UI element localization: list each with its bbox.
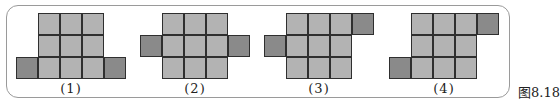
light-square (433, 57, 455, 79)
panel-label-1: (1) (60, 81, 81, 96)
light-square (330, 57, 352, 79)
light-square (330, 13, 352, 35)
light-square (38, 57, 60, 79)
dark-square (140, 35, 162, 57)
light-square (308, 13, 330, 35)
light-square (184, 35, 206, 57)
light-square (206, 35, 228, 57)
dark-square (352, 13, 374, 35)
light-square (82, 57, 104, 79)
light-square (38, 35, 60, 57)
light-square (286, 35, 308, 57)
light-square (308, 57, 330, 79)
light-square (286, 13, 308, 35)
light-square (184, 57, 206, 79)
light-square (60, 35, 82, 57)
light-square (162, 57, 184, 79)
light-square (455, 13, 477, 35)
panel-label-3: (3) (308, 81, 329, 96)
light-square (308, 35, 330, 57)
light-square (206, 57, 228, 79)
panel-label-4: (4) (433, 81, 454, 96)
light-square (455, 35, 477, 57)
panel-label-2: (2) (184, 81, 205, 96)
light-square (60, 57, 82, 79)
light-square (433, 13, 455, 35)
dark-square (477, 13, 499, 35)
light-square (433, 35, 455, 57)
dark-square (264, 35, 286, 57)
light-square (162, 13, 184, 35)
light-square (82, 13, 104, 35)
light-square (455, 57, 477, 79)
dark-square (16, 57, 38, 79)
light-square (411, 35, 433, 57)
light-square (411, 57, 433, 79)
light-square (38, 13, 60, 35)
figure-caption: 图8.18 (518, 82, 560, 101)
dark-square (228, 35, 250, 57)
light-square (206, 13, 228, 35)
dark-square (389, 57, 411, 79)
light-square (60, 13, 82, 35)
light-square (184, 13, 206, 35)
light-square (411, 13, 433, 35)
light-square (162, 35, 184, 57)
light-square (286, 57, 308, 79)
light-square (330, 35, 352, 57)
dark-square (104, 57, 126, 79)
light-square (82, 35, 104, 57)
